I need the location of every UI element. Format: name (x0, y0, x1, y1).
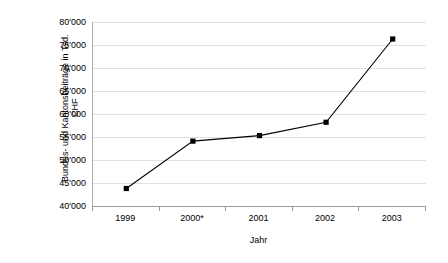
data-point-marker (190, 139, 195, 144)
y-axis-tick-label: 45'000 (59, 179, 86, 188)
x-axis-tick-label: 1999 (115, 214, 135, 223)
x-axis-tick (92, 206, 93, 211)
y-axis-tick-label: 55'000 (59, 133, 86, 142)
y-axis-tick-label: 60'000 (59, 110, 86, 119)
data-point-marker (390, 36, 395, 41)
x-axis-tick-label: 2000* (180, 214, 204, 223)
y-axis-tick-label: 80'000 (59, 18, 86, 27)
y-axis-tick-labels: 40'00045'00050'00055'00060'00065'00070'0… (48, 22, 90, 206)
y-axis-tick-label: 50'000 (59, 156, 86, 165)
data-point-marker (257, 133, 262, 138)
x-axis-ticks (92, 206, 426, 212)
data-series-layer (93, 22, 426, 206)
x-axis-tick-label: 2002 (315, 214, 335, 223)
x-axis-tick-label: 2001 (248, 214, 268, 223)
x-axis-tick (225, 206, 226, 211)
data-point-marker (324, 120, 329, 125)
series-line (126, 39, 392, 189)
data-point-marker (124, 186, 129, 191)
series-markers (124, 36, 396, 191)
x-axis-tick-labels: 19992000*200120022003 (92, 214, 425, 230)
x-axis-tick (358, 206, 359, 211)
x-axis-tick-label: 2003 (382, 214, 402, 223)
y-axis-tick-label: 40'000 (59, 202, 86, 211)
x-axis-tick (425, 206, 426, 211)
x-axis-tick (159, 206, 160, 211)
x-axis-tick (292, 206, 293, 211)
line-chart: Bundes- und Kantonsbeiträge in Tsd. CHF … (0, 0, 448, 263)
y-axis-tick-label: 70'000 (59, 64, 86, 73)
plot-area (92, 22, 426, 207)
y-axis-tick-label: 65'000 (59, 87, 86, 96)
y-axis-tick-label: 75'000 (59, 41, 86, 50)
x-axis-title: Jahr (92, 236, 425, 245)
